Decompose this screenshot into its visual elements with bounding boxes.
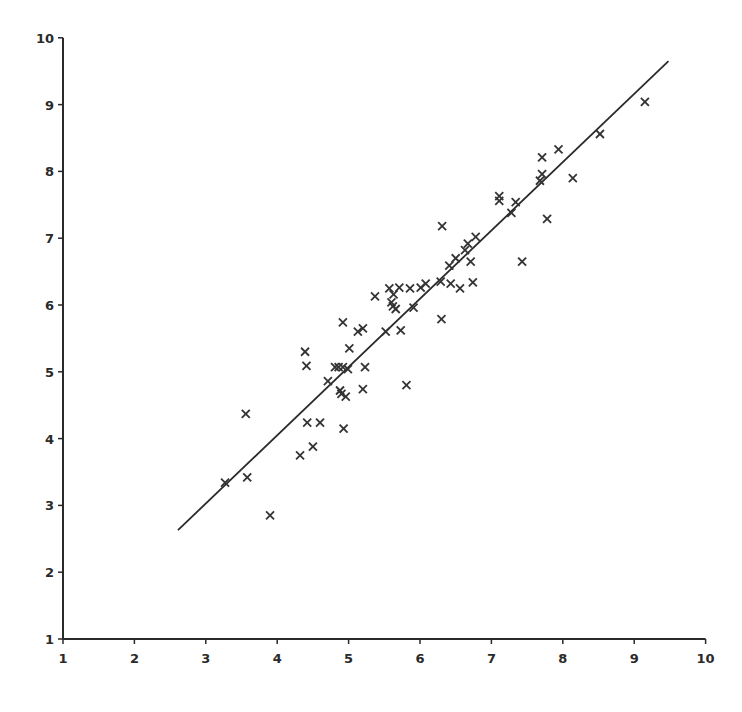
x-marker-icon <box>456 284 464 292</box>
x-tick-label: 2 <box>130 651 139 666</box>
x-tick-label: 1 <box>58 651 67 666</box>
x-tick-label: 8 <box>558 651 567 666</box>
x-marker-icon <box>395 284 403 292</box>
y-tick-label: 2 <box>45 565 54 580</box>
x-marker-icon <box>543 215 551 223</box>
x-marker-icon <box>359 385 367 393</box>
x-marker-icon <box>324 377 332 385</box>
x-marker-icon <box>345 344 353 352</box>
x-marker-icon <box>242 410 250 418</box>
x-marker-icon <box>339 318 347 326</box>
x-marker-icon <box>309 443 317 451</box>
x-marker-icon <box>382 328 390 336</box>
y-axis: 12345678910 <box>36 31 63 647</box>
x-tick-label: 7 <box>487 651 496 666</box>
x-marker-icon <box>437 315 445 323</box>
y-tick-label: 9 <box>45 98 54 113</box>
x-marker-icon <box>555 145 563 153</box>
x-tick-label: 3 <box>201 651 210 666</box>
x-marker-icon <box>340 425 348 433</box>
x-marker-icon <box>397 326 405 334</box>
x-marker-icon <box>301 348 309 356</box>
x-marker-icon <box>445 262 453 270</box>
x-marker-icon <box>452 254 460 262</box>
x-marker-icon <box>296 451 304 459</box>
x-tick-label: 4 <box>273 651 282 666</box>
y-tick-label: 8 <box>45 164 54 179</box>
x-axis: 12345678910 <box>58 639 714 666</box>
y-tick-label: 4 <box>45 432 54 447</box>
x-marker-icon <box>596 130 604 138</box>
x-marker-icon <box>438 222 446 230</box>
data-points <box>221 98 649 519</box>
x-marker-icon <box>512 198 520 206</box>
y-tick-label: 7 <box>45 231 54 246</box>
x-marker-icon <box>641 98 649 106</box>
x-marker-icon <box>569 174 577 182</box>
x-marker-icon <box>361 363 369 371</box>
y-tick-label: 1 <box>45 632 54 647</box>
x-tick-label: 6 <box>415 651 424 666</box>
x-marker-icon <box>392 305 400 313</box>
x-tick-label: 5 <box>344 651 353 666</box>
x-marker-icon <box>469 278 477 286</box>
x-marker-icon <box>402 381 410 389</box>
x-marker-icon <box>406 284 414 292</box>
y-tick-label: 3 <box>45 498 54 513</box>
x-marker-icon <box>518 258 526 266</box>
y-tick-label: 5 <box>45 365 54 380</box>
x-marker-icon <box>303 419 311 427</box>
x-marker-icon <box>243 473 251 481</box>
x-marker-icon <box>422 280 430 288</box>
regression-line <box>178 61 669 530</box>
x-marker-icon <box>472 233 480 241</box>
x-marker-icon <box>538 170 546 178</box>
x-marker-icon <box>495 192 503 200</box>
x-marker-icon <box>302 362 310 370</box>
x-marker-icon <box>467 258 475 266</box>
y-tick-label: 10 <box>36 31 54 46</box>
x-marker-icon <box>266 511 274 519</box>
scatter-chart: 12345678910 12345678910 <box>0 0 742 712</box>
x-marker-icon <box>538 153 546 161</box>
x-tick-label: 10 <box>697 651 715 666</box>
x-marker-icon <box>316 419 324 427</box>
x-marker-icon <box>371 292 379 300</box>
fit-line <box>178 61 669 530</box>
x-tick-label: 9 <box>630 651 639 666</box>
x-marker-icon <box>447 280 455 288</box>
y-tick-label: 6 <box>45 298 54 313</box>
